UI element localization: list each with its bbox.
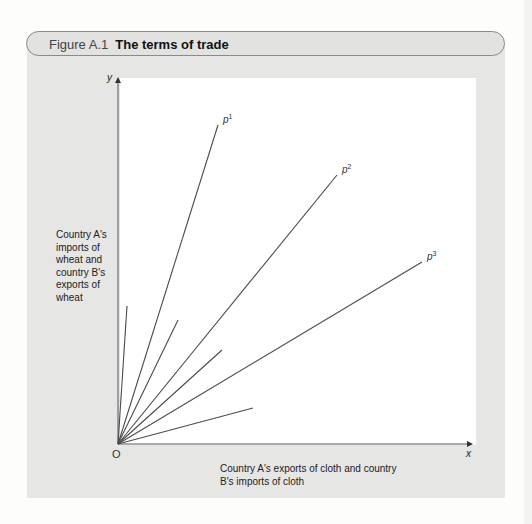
origin-label: O — [112, 448, 121, 460]
ray-ray-a — [118, 306, 127, 444]
label-p3: p3 — [427, 250, 436, 262]
price-ratio-rays — [118, 125, 422, 444]
y-axis-label: Country A's imports of wheat and country… — [56, 229, 126, 305]
y-axis-letter: y — [107, 72, 112, 83]
x-axis-letter: x — [466, 448, 471, 459]
ray-p1 — [118, 125, 218, 444]
ray-p2 — [118, 175, 337, 444]
x-axis-label: Country A's exports of cloth and country… — [220, 463, 400, 488]
ray-p3 — [118, 262, 422, 444]
label-p2: p2 — [342, 163, 351, 175]
label-p1: p1 — [223, 113, 232, 125]
